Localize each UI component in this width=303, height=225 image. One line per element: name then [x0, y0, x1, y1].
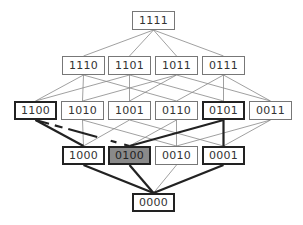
- node-0111: 0111: [202, 56, 245, 75]
- node-0001: 0001: [202, 146, 245, 165]
- edge-1111-1101: [130, 30, 154, 56]
- node-1111: 1111: [132, 11, 175, 30]
- edge-1011-1001: [130, 75, 177, 101]
- node-0011: 0011: [249, 101, 292, 120]
- node-1011: 1011: [155, 56, 198, 75]
- edge-0001-0000: [154, 165, 224, 193]
- edge-1000-0000: [84, 165, 154, 193]
- node-0010: 0010: [155, 146, 198, 165]
- edge-1100-1000: [36, 120, 84, 146]
- node-0110: 0110: [155, 101, 198, 120]
- edge-1001-1000: [84, 120, 130, 146]
- node-1110: 1110: [62, 56, 105, 75]
- node-1001: 1001: [108, 101, 151, 120]
- edge-1101-0101: [130, 75, 224, 101]
- edge-1110-1100: [36, 75, 84, 101]
- edge-0110-0100: [130, 120, 177, 146]
- edge-0011-0001: [224, 120, 271, 146]
- node-0000: 0000: [132, 193, 175, 212]
- edge-1010-0010: [83, 120, 177, 146]
- edge-1111-0111: [154, 30, 224, 56]
- edge-0111-0110: [177, 75, 224, 101]
- node-1101: 1101: [108, 56, 151, 75]
- node-0100: 0100: [108, 146, 151, 165]
- edge-0111-0011: [224, 75, 271, 101]
- edge-1111-1110: [84, 30, 154, 56]
- node-1100: 1100: [14, 101, 57, 120]
- node-0101: 0101: [202, 101, 245, 120]
- node-1010: 1010: [61, 101, 104, 120]
- node-1000: 1000: [62, 146, 105, 165]
